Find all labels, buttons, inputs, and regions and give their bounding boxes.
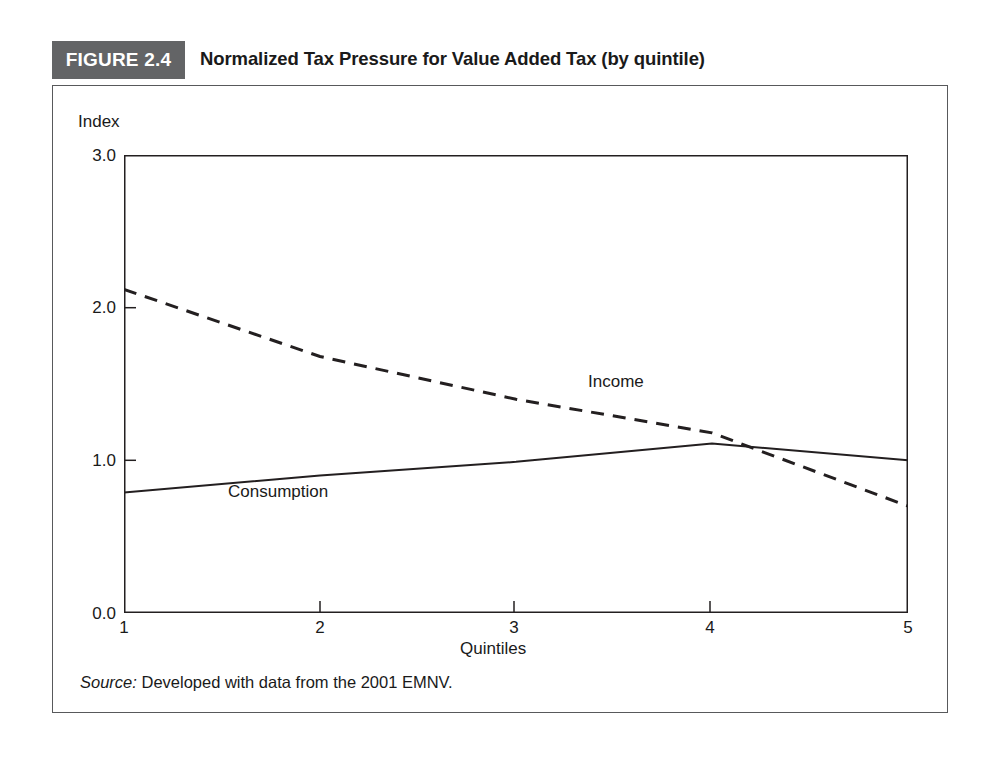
source-note: Source: Developed with data from the 200…: [80, 673, 453, 692]
x-axis-ticks: [320, 601, 710, 612]
x-tick-label-5: 5: [888, 619, 928, 636]
x-tick-label-1: 1: [104, 619, 144, 636]
x-tick-label-3: 3: [494, 619, 534, 636]
series-label-income: Income: [588, 372, 644, 392]
plot-border: [125, 156, 908, 613]
x-axis-title: Quintiles: [460, 639, 526, 659]
source-note-text: Developed with data from the 2001 EMNV.: [137, 673, 453, 691]
y-axis-tick-labels: 3.0 2.0 1.0 0.0: [66, 0, 116, 767]
y-axis-ticks: [125, 308, 136, 461]
series-line-income: [124, 289, 908, 506]
y-tick-label-2: 2.0: [70, 299, 116, 316]
x-tick-label-4: 4: [690, 619, 730, 636]
x-tick-label-2: 2: [300, 619, 340, 636]
figure-container: FIGURE 2.4 Normalized Tax Pressure for V…: [0, 0, 991, 767]
plot-area: [124, 155, 908, 613]
series-label-consumption: Consumption: [228, 482, 328, 502]
y-tick-label-3: 3.0: [70, 147, 116, 164]
figure-title: Normalized Tax Pressure for Value Added …: [200, 48, 705, 70]
chart-svg: [124, 155, 908, 613]
y-tick-label-1: 1.0: [70, 452, 116, 469]
source-note-label: Source:: [80, 673, 137, 691]
